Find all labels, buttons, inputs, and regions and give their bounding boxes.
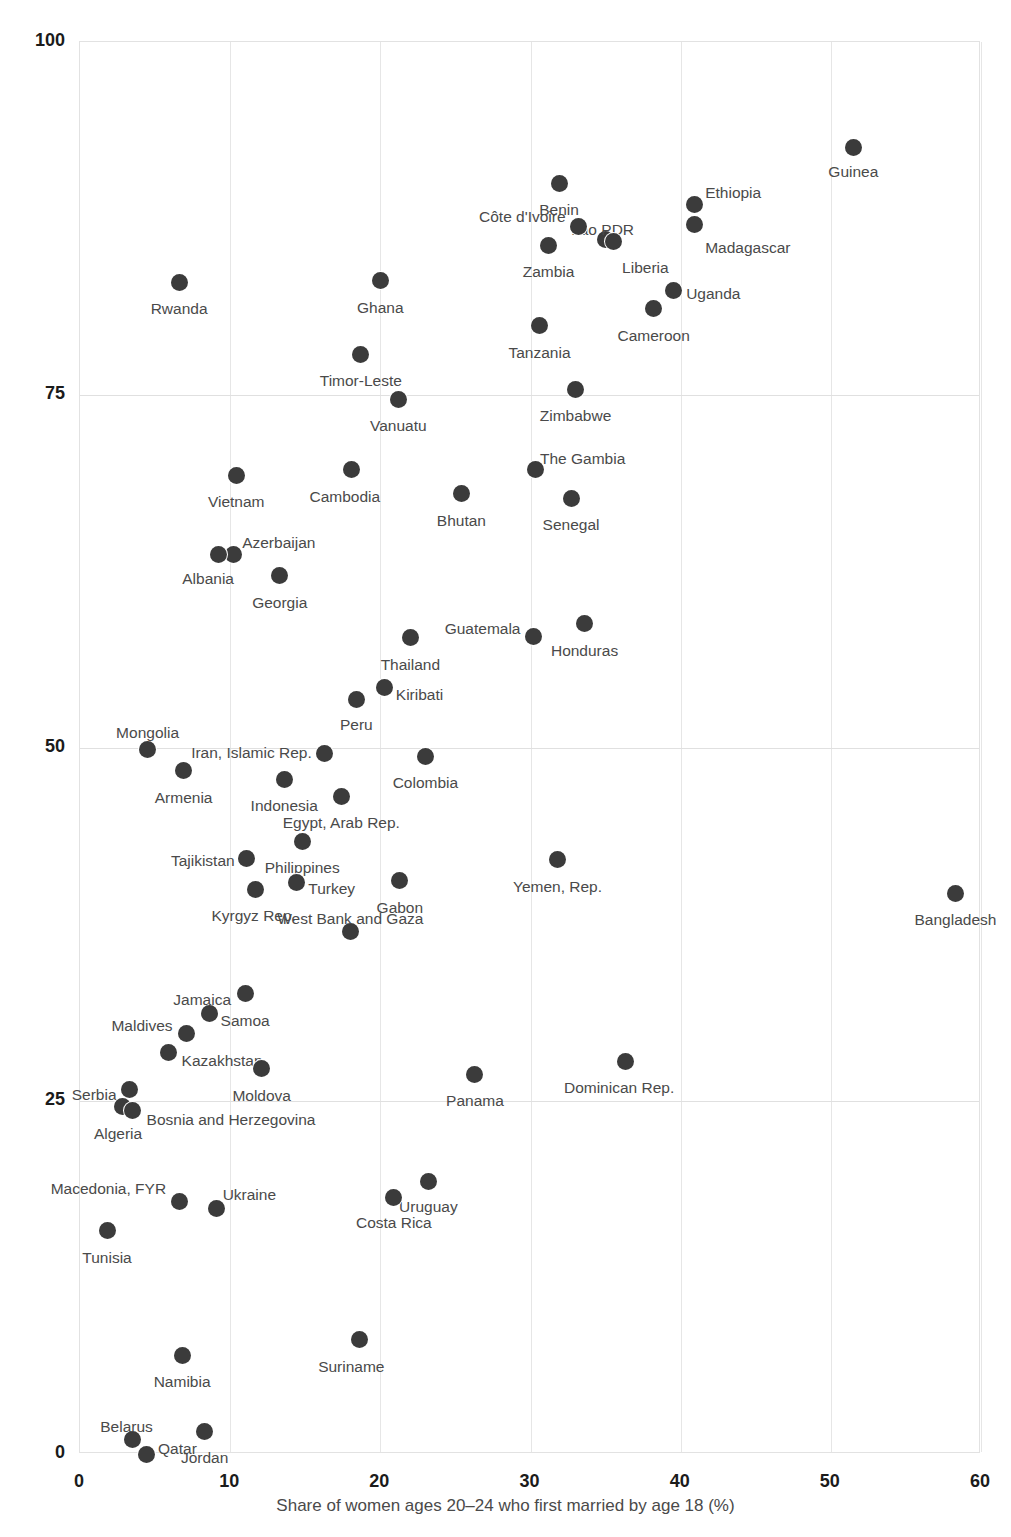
data-point[interactable]: [645, 300, 662, 317]
data-point[interactable]: [686, 196, 703, 213]
data-point[interactable]: [549, 851, 566, 868]
data-point-label: Senegal: [543, 517, 600, 533]
data-point-label: Serbia: [72, 1087, 117, 1103]
data-point[interactable]: [845, 139, 862, 156]
data-point[interactable]: [333, 788, 350, 805]
data-point[interactable]: [210, 546, 227, 563]
data-point[interactable]: [540, 237, 557, 254]
data-point-label: Honduras: [551, 643, 618, 659]
data-point[interactable]: [288, 874, 305, 891]
data-point[interactable]: [385, 1189, 402, 1206]
x-tick-label-10: 10: [199, 1471, 259, 1492]
data-point[interactable]: [138, 1446, 155, 1463]
data-point[interactable]: [352, 346, 369, 363]
data-point[interactable]: [124, 1102, 141, 1119]
data-point[interactable]: [551, 175, 568, 192]
data-point-label: Dominican Rep.: [564, 1080, 674, 1096]
data-point-label: Cambodia: [309, 489, 380, 505]
data-point[interactable]: [228, 467, 245, 484]
plot-area: GuineaBeninEthiopiaLao PDRMadagascarCôte…: [79, 41, 980, 1453]
data-point[interactable]: [391, 872, 408, 889]
data-point[interactable]: [567, 381, 584, 398]
y-tick-label-50: 50: [0, 736, 65, 757]
data-point[interactable]: [665, 282, 682, 299]
data-point-label: Costa Rica: [356, 1215, 432, 1231]
data-point[interactable]: [294, 833, 311, 850]
data-point[interactable]: [276, 771, 293, 788]
x-axis-label: Share of women ages 20–24 who first marr…: [0, 1496, 1011, 1516]
data-point-label: Jamaica: [173, 992, 231, 1008]
data-point-label: Tajikistan: [171, 853, 235, 869]
data-point-label: Uganda: [686, 286, 740, 302]
data-point[interactable]: [525, 628, 542, 645]
data-point[interactable]: [402, 629, 419, 646]
data-point[interactable]: [605, 233, 622, 250]
y-tick-label-100: 100: [0, 30, 65, 51]
x-tick-label-60: 60: [950, 1471, 1010, 1492]
data-point-label: Turkey: [308, 881, 355, 897]
data-point-label: Kiribati: [396, 687, 443, 703]
data-point[interactable]: [617, 1053, 634, 1070]
data-point[interactable]: [225, 546, 242, 563]
data-point-label: Armenia: [155, 790, 213, 806]
clipped-header-text: [0, 0, 1011, 3]
data-point-label: Cameroon: [617, 328, 689, 344]
data-point-label: Iran, Islamic Rep.: [191, 745, 312, 761]
gridline-y-25: [80, 1101, 979, 1102]
data-point[interactable]: [947, 885, 964, 902]
data-point[interactable]: [316, 745, 333, 762]
data-point[interactable]: [247, 881, 264, 898]
data-point[interactable]: [253, 1060, 270, 1077]
data-point[interactable]: [372, 272, 389, 289]
x-tick-label-50: 50: [800, 1471, 860, 1492]
data-point-label: Guinea: [828, 164, 878, 180]
data-point-label: West Bank and Gaza: [277, 911, 423, 927]
data-point-label: Moldova: [232, 1088, 291, 1104]
data-point[interactable]: [390, 391, 407, 408]
data-point[interactable]: [171, 274, 188, 291]
data-point[interactable]: [417, 748, 434, 765]
x-tick-label-0: 0: [49, 1471, 109, 1492]
data-point[interactable]: [271, 567, 288, 584]
data-point-label: Côte d'Ivoire: [479, 209, 566, 225]
data-point-label: Georgia: [252, 595, 307, 611]
data-point[interactable]: [376, 679, 393, 696]
data-point[interactable]: [196, 1423, 213, 1440]
data-point[interactable]: [466, 1066, 483, 1083]
data-point[interactable]: [343, 461, 360, 478]
data-point[interactable]: [351, 1331, 368, 1348]
data-point-label: Liberia: [622, 260, 669, 276]
data-point-label: Tunisia: [82, 1250, 131, 1266]
scatter-chart: GuineaBeninEthiopiaLao PDRMadagascarCôte…: [0, 0, 1011, 1537]
data-point[interactable]: [174, 1347, 191, 1364]
data-point[interactable]: [178, 1025, 195, 1042]
data-point-label: Indonesia: [251, 798, 318, 814]
data-point[interactable]: [531, 317, 548, 334]
data-point[interactable]: [563, 490, 580, 507]
data-point[interactable]: [238, 850, 255, 867]
x-tick-label-20: 20: [349, 1471, 409, 1492]
data-point-label: Belarus: [100, 1419, 153, 1435]
data-point-label: Peru: [340, 717, 373, 733]
data-point-label: Zimbabwe: [540, 408, 612, 424]
x-tick-label-40: 40: [650, 1471, 710, 1492]
y-tick-label-25: 25: [0, 1089, 65, 1110]
data-point[interactable]: [160, 1044, 177, 1061]
data-point-label: Egypt, Arab Rep.: [283, 815, 400, 831]
data-point-label: Bhutan: [437, 513, 486, 529]
data-point[interactable]: [171, 1193, 188, 1210]
data-point[interactable]: [121, 1081, 138, 1098]
data-point[interactable]: [420, 1173, 437, 1190]
gridline-x-50: [831, 42, 832, 1452]
data-point-label: Maldives: [111, 1018, 172, 1034]
data-point[interactable]: [453, 485, 470, 502]
data-point[interactable]: [348, 691, 365, 708]
data-point-label: Colombia: [393, 775, 458, 791]
data-point[interactable]: [237, 985, 254, 1002]
data-point-label: Vanuatu: [370, 418, 427, 434]
data-point[interactable]: [175, 762, 192, 779]
data-point[interactable]: [686, 216, 703, 233]
data-point[interactable]: [576, 615, 593, 632]
data-point[interactable]: [139, 741, 156, 758]
data-point[interactable]: [99, 1222, 116, 1239]
